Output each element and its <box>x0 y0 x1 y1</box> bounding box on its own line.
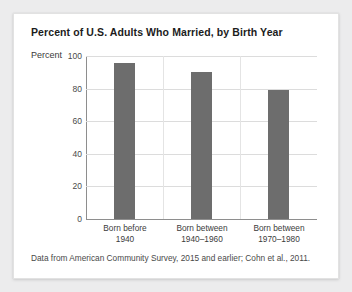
y-tick-label-0: 0 <box>52 214 82 224</box>
y-tick-label-80: 80 <box>52 84 82 94</box>
x-category-label-2-line-2: 1940–1960 <box>159 234 245 245</box>
y-tick-label-40: 40 <box>52 149 82 159</box>
y-tick-label-20: 20 <box>52 181 82 191</box>
x-category-label-3-line-1: Born between <box>253 223 304 233</box>
plot-area <box>86 56 317 219</box>
x-category-label-2-line-1: Born between <box>176 223 227 233</box>
x-category-label-1-line-1: Born before <box>103 223 146 233</box>
category-separator-1 <box>163 56 164 219</box>
x-category-label-2: Born between1940–1960 <box>159 223 245 244</box>
gridline-100 <box>86 56 317 57</box>
x-axis-category-labels: Born before1940Born between1940–1960Born… <box>86 223 317 257</box>
x-category-label-3-line-2: 1970–1980 <box>236 234 322 245</box>
x-category-label-1: Born before1940 <box>82 223 168 244</box>
bar-2 <box>191 72 212 219</box>
x-category-label-1-line-2: 1940 <box>82 234 168 245</box>
gridline-0 <box>86 219 317 220</box>
source-note: Data from American Community Survey, 201… <box>31 253 310 263</box>
chart-card: Percent of U.S. Adults Who Married, by B… <box>13 13 339 279</box>
y-tick-label-100: 100 <box>52 51 82 61</box>
bar-1 <box>114 63 135 219</box>
x-category-label-3: Born between1970–1980 <box>236 223 322 244</box>
category-separator-2 <box>240 56 241 219</box>
bar-3 <box>268 90 289 219</box>
y-tick-label-60: 60 <box>52 116 82 126</box>
chart-title: Percent of U.S. Adults Who Married, by B… <box>31 26 283 38</box>
y-axis-tick-labels: 020406080100 <box>48 56 82 219</box>
